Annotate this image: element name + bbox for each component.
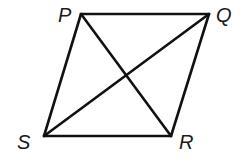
side-sp [44,14,81,136]
vertex-label-p: P [58,4,72,26]
vertex-label-s: S [17,131,31,153]
side-qr [171,14,209,136]
vertex-label-r: R [179,131,193,153]
parallelogram-diagram: P Q R S [0,0,246,161]
vertex-label-q: Q [216,4,232,26]
diagonal-qs [44,14,209,136]
